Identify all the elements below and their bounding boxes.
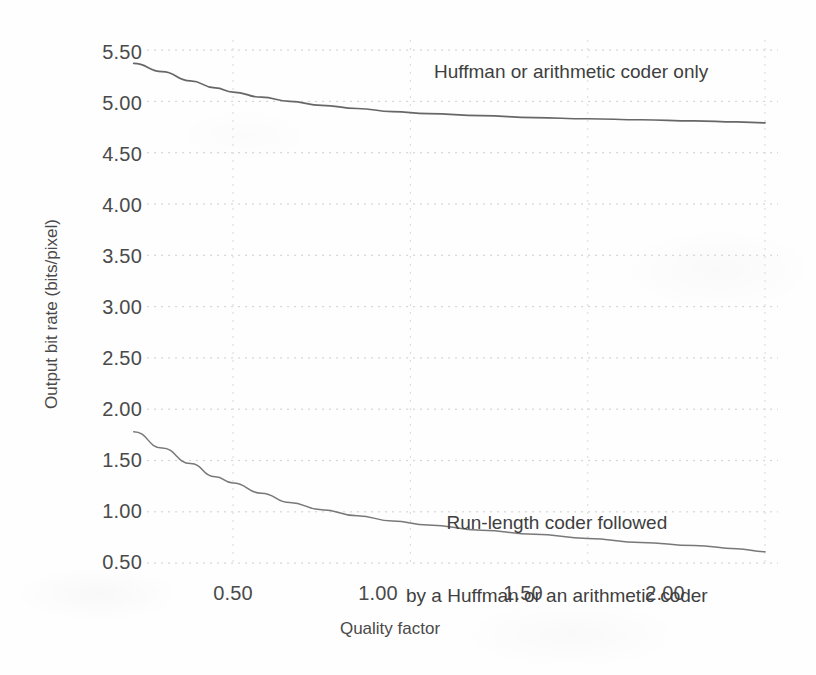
gridline-vertical <box>765 38 766 565</box>
gridline-horizontal <box>144 203 778 204</box>
y-tick-label: 1.50 <box>60 449 142 472</box>
gridline-horizontal <box>144 409 778 410</box>
series-annotation-lower: Run-length coder followed by a Huffman o… <box>406 462 708 657</box>
y-tick-label: 4.50 <box>60 143 142 166</box>
gridline-horizontal <box>144 101 778 102</box>
gridline-horizontal <box>144 152 778 153</box>
x-tick-label: 0.50 <box>193 582 273 605</box>
gridline-horizontal <box>144 460 778 461</box>
y-tick-label: 5.50 <box>60 41 142 64</box>
y-tick-label: 2.00 <box>60 398 142 421</box>
y-tick-label: 3.00 <box>60 296 142 319</box>
y-axis-title: Output bit rate (bits/pixel) <box>42 174 62 454</box>
gridline-horizontal <box>144 50 778 51</box>
figure-canvas: 5.50 5.00 4.50 4.00 3.50 3.00 2.50 2.00 … <box>0 0 816 675</box>
y-tick-label: 0.50 <box>60 551 142 574</box>
y-tick-label: 2.50 <box>60 347 142 370</box>
series-annotation-lower-line1: Run-length coder followed <box>406 511 708 535</box>
gridline-horizontal <box>144 357 778 358</box>
series-annotation-lower-line2: by a Huffman or an arithmetic coder <box>406 584 708 608</box>
gridline-vertical <box>233 38 234 565</box>
y-tick-label: 1.00 <box>60 500 142 523</box>
y-tick-label: 5.00 <box>60 92 142 115</box>
gridline-horizontal <box>144 255 778 256</box>
y-tick-label: 3.50 <box>60 245 142 268</box>
y-tick-label: 4.00 <box>60 194 142 217</box>
series-annotation-upper: Huffman or arithmetic coder only <box>434 60 708 84</box>
gridline-horizontal <box>144 306 778 307</box>
